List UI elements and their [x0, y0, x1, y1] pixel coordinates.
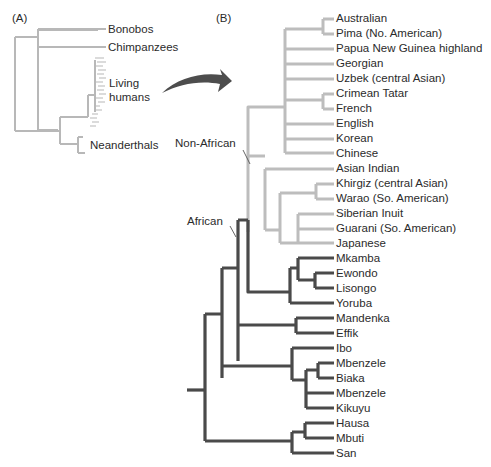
- leaf-japanese: Japanese: [336, 237, 386, 250]
- leaf-siberian-inuit: Siberian Inuit: [336, 207, 403, 220]
- leaf-korean: Korean: [336, 132, 373, 145]
- leaf-mandenka: Mandenka: [336, 312, 390, 325]
- leaf-pima: Pima (No. American): [336, 27, 442, 40]
- leaf-ibo: Ibo: [336, 342, 352, 355]
- taxon-living-humans-line1: Living: [109, 77, 139, 90]
- leaf-mbuti: Mbuti: [336, 432, 364, 445]
- leaf-biaka: Biaka: [336, 372, 365, 385]
- leaf-effik: Effik: [336, 327, 358, 340]
- leaf-crimean-tatar: Crimean Tatar: [336, 87, 408, 100]
- leaf-mbenzele-2: Mbenzele: [336, 387, 386, 400]
- leaf-guarani: Guarani (So. American): [336, 222, 456, 235]
- taxon-living-humans-line2: humans: [109, 91, 150, 104]
- leaf-ewondo: Ewondo: [336, 267, 378, 280]
- taxon-neanderthals: Neanderthals: [90, 139, 158, 152]
- group-label-non-african: Non-African: [175, 137, 236, 150]
- leaf-georgian: Georgian: [336, 57, 383, 70]
- leaf-australian: Australian: [336, 12, 387, 25]
- taxon-bonobos: Bonobos: [108, 23, 153, 36]
- group-label-african: African: [187, 215, 223, 228]
- african-clade: [187, 220, 334, 453]
- non-african-clade: [248, 19, 334, 243]
- leaf-english: English: [336, 117, 374, 130]
- leaf-mbenzele-1: Mbenzele: [336, 357, 386, 370]
- leaf-chinese: Chinese: [336, 147, 378, 160]
- panel-b-label: (B): [216, 12, 231, 24]
- leaf-papua-new-guinea: Papua New Guinea highland: [336, 42, 482, 55]
- leaf-khirgiz: Khirgiz (central Asian): [336, 177, 448, 190]
- leaf-asian-indian: Asian Indian: [336, 162, 399, 175]
- leaf-french: French: [336, 102, 372, 115]
- panel-a-tree: [15, 29, 106, 153]
- african-leader-line: [230, 226, 236, 237]
- taxon-chimpanzees: Chimpanzees: [108, 41, 178, 54]
- leaf-hausa: Hausa: [336, 417, 369, 430]
- leaf-san: San: [336, 447, 356, 460]
- leaf-mkamba: Mkamba: [336, 252, 380, 265]
- arrow-icon: [162, 69, 232, 93]
- leaf-uzbek: Uzbek (central Asian): [336, 72, 445, 85]
- leaf-warao: Warao (So. American): [336, 192, 449, 205]
- leaf-yoruba: Yoruba: [336, 297, 372, 310]
- leaf-lisongo: Lisongo: [336, 282, 376, 295]
- leaf-kikuyu: Kikuyu: [336, 402, 371, 415]
- panel-a-label: (A): [12, 12, 27, 24]
